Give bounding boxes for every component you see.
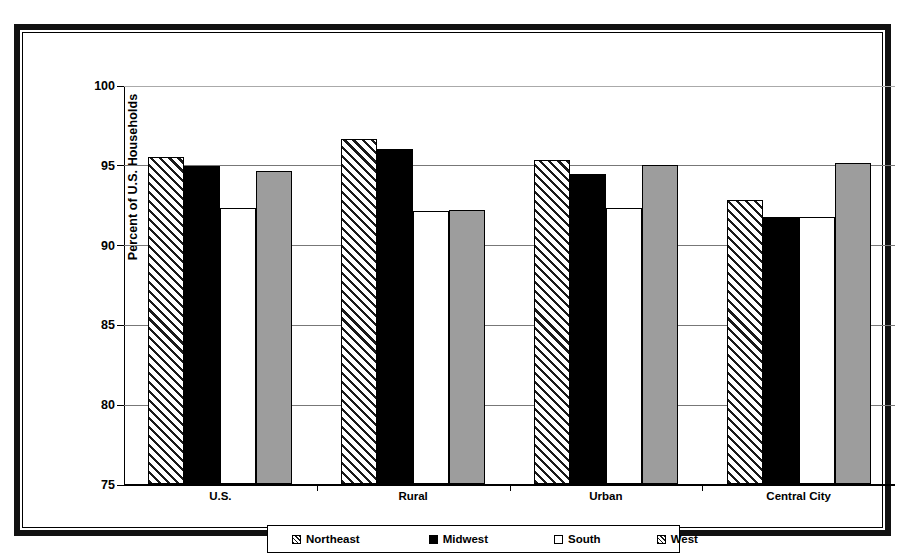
bar-south-urban	[606, 208, 642, 484]
y-tick-mark-80	[117, 405, 124, 406]
y-tick-label-90: 90	[77, 240, 115, 253]
legend-label: Midwest	[443, 533, 488, 545]
y-tick-label-95: 95	[77, 160, 115, 173]
bar-northeast-urban	[534, 160, 570, 484]
bar-west-rural	[449, 210, 485, 485]
bar-west-central-city	[835, 163, 871, 484]
bar-midwest-urban	[570, 174, 606, 484]
x-axis-label-u-s: U.S.	[124, 490, 317, 502]
plot-area: 7580859095100 U.S.RuralUrbanCentral City	[124, 86, 895, 485]
bar-midwest-rural	[377, 149, 413, 484]
gridline-95	[124, 165, 895, 166]
bar-south-rural	[413, 211, 449, 484]
legend-label: South	[568, 533, 601, 545]
legend-swatch-northeast-icon	[292, 535, 301, 544]
bar-northeast-rural	[341, 139, 377, 484]
y-tick-label-100: 100	[77, 80, 115, 93]
bar-northeast-central-city	[727, 200, 763, 484]
x-axis-label-rural: Rural	[317, 490, 510, 502]
y-tick-mark-85	[117, 325, 124, 326]
bar-northeast-u-s	[148, 157, 184, 484]
y-tick-label-80: 80	[77, 399, 115, 412]
chart-figure-frame: Percent of U.S. Households 7580859095100…	[14, 24, 891, 536]
bar-west-u-s	[256, 171, 292, 484]
bar-south-u-s	[220, 208, 256, 484]
y-tick-mark-75	[117, 485, 124, 486]
y-tick-mark-100	[117, 86, 124, 87]
legend-item-midwest[interactable]: Midwest	[429, 533, 488, 545]
legend-swatch-south-icon	[554, 535, 563, 544]
y-tick-mark-95	[117, 165, 124, 166]
bar-midwest-u-s	[184, 166, 220, 484]
legend-item-northeast[interactable]: Northeast	[292, 533, 360, 545]
chart-legend: NortheastMidwestSouthWest	[267, 525, 680, 553]
y-tick-mark-90	[117, 245, 124, 246]
bar-west-urban	[642, 165, 678, 484]
x-axis-label-central-city: Central City	[702, 490, 895, 502]
y-tick-label-85: 85	[77, 319, 115, 332]
y-axis-line	[124, 86, 125, 485]
legend-swatch-midwest-icon	[429, 535, 438, 544]
bar-midwest-central-city	[763, 217, 799, 484]
gridline-100	[124, 86, 895, 87]
legend-swatch-west-icon	[657, 535, 666, 544]
legend-item-west[interactable]: West	[657, 533, 698, 545]
bar-south-central-city	[799, 217, 835, 484]
legend-label: West	[671, 533, 698, 545]
legend-label: Northeast	[306, 533, 360, 545]
x-axis-label-urban: Urban	[510, 490, 703, 502]
y-tick-label-75: 75	[77, 479, 115, 492]
legend-item-south[interactable]: South	[554, 533, 601, 545]
